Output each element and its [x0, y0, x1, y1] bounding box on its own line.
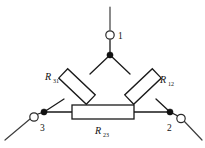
resistor-r31-symbol: R	[44, 71, 51, 82]
node-dot-3	[41, 109, 47, 115]
resistor-r31-label: R 31	[44, 71, 59, 84]
terminal-label-1: 1	[118, 31, 123, 41]
resistor-r12-label: R 12	[159, 74, 174, 87]
circuit-diagram-figure: 1 3 2 R 31 R 12 R 23	[0, 0, 205, 148]
resistor-r31-subscript: 31	[53, 78, 59, 84]
terminal-label-3: 3	[40, 123, 45, 133]
wire-node1-to-r12	[110, 55, 130, 74]
terminal-ring-3[interactable]	[30, 113, 38, 121]
resistor-r12-subscript: 12	[168, 81, 174, 87]
node-dot-2	[167, 109, 173, 115]
resistor-r12-symbol: R	[159, 74, 166, 85]
lead-terminal-2	[184, 121, 202, 140]
resistor-r23-symbol: R	[94, 125, 101, 136]
terminal-ring-1[interactable]	[106, 31, 114, 39]
terminal-ring-2[interactable]	[177, 114, 185, 122]
resistor-r23-subscript: 23	[103, 132, 109, 138]
resistor-r23-label: R 23	[94, 125, 109, 138]
circuit-canvas: 1 3 2 R 31 R 12 R 23	[0, 0, 205, 148]
lead-terminal-3	[5, 119, 30, 140]
resistor-r23-body	[72, 105, 134, 119]
node-dot-1	[107, 52, 113, 58]
wire-node1-to-r31	[90, 55, 110, 74]
terminal-label-2: 2	[167, 123, 172, 133]
wire-r31-to-node3	[44, 99, 64, 112]
